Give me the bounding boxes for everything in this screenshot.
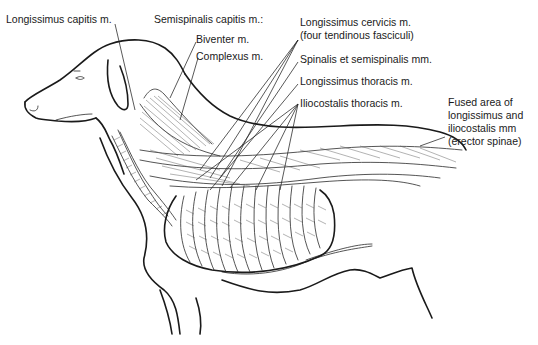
label-longissimus-cervicis-note: (four tendinous fasciculi) [300,29,414,42]
label-fused-area-4: (erector spinae) [448,135,522,148]
rib-cage [164,186,334,272]
label-longissimus-capitis: Longissimus capitis m. [6,13,112,26]
longissimus-bands [140,146,462,188]
label-spinalis-semispinalis: Spinalis et semispinalis mm. [300,53,432,66]
label-fused-area-3: iliocostalis mm [448,122,516,135]
label-longissimus-cervicis: Longissimus cervicis m. [300,16,411,29]
dog-head-outline [25,40,185,174]
dog-body-outline [100,74,466,334]
dog-muscle-drawing [0,0,538,345]
label-complexus: Complexus m. [196,50,263,63]
label-fused-area-2: longissimus and [448,109,523,122]
label-longissimus-thoracis: Longissimus thoracis m. [300,75,413,88]
anatomy-figure: Longissimus capitis m. Semispinalis capi… [0,0,538,345]
label-iliocostalis-thoracis: Iliocostalis thoracis m. [300,97,403,110]
label-biventer: Biventer m. [196,33,249,46]
semispinalis-capitis-muscle [140,89,220,156]
label-semispinalis-capitis: Semispinalis capitis m.: [154,13,263,26]
label-fused-area-1: Fused area of [448,96,513,109]
